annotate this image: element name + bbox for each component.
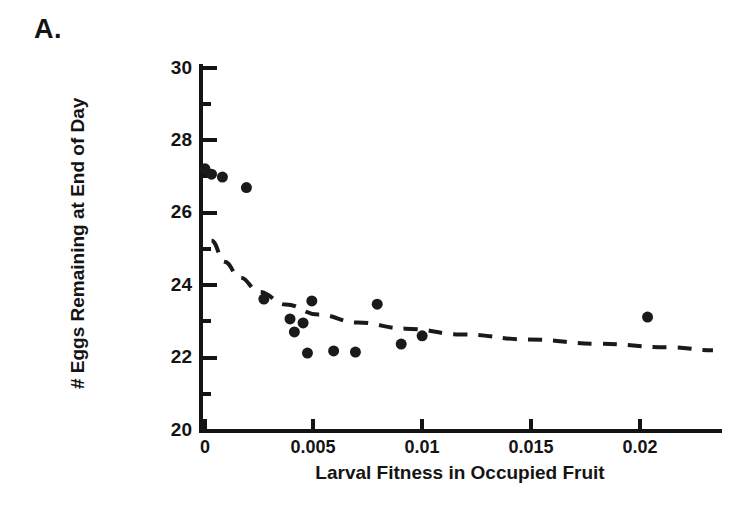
y-tick-label-28: 28: [148, 129, 192, 151]
data-point: [417, 330, 428, 341]
data-point: [328, 345, 339, 356]
x-tick-label-0015: 0.015: [508, 437, 553, 458]
x-tick-label-001: 0.01: [404, 437, 439, 458]
data-point-group: [200, 163, 654, 358]
data-point: [372, 299, 383, 310]
fit-curve-dashed: [212, 241, 713, 350]
scatter-plot-figure: # Eggs Remaining at End of Day Larval Fi…: [0, 0, 747, 519]
data-point: [306, 295, 317, 306]
x-axis-title: Larval Fitness in Occupied Fruit: [200, 462, 720, 484]
data-point: [350, 347, 361, 358]
axis-lines: [199, 64, 722, 431]
data-point: [206, 169, 217, 180]
data-point: [396, 339, 407, 350]
data-point: [642, 312, 653, 323]
y-axis-major-ticks: [201, 68, 217, 358]
data-point: [302, 348, 313, 359]
y-tick-label-20: 20: [148, 419, 192, 441]
data-point: [241, 182, 252, 193]
x-tick-label-002: 0.02: [622, 437, 657, 458]
data-point: [217, 172, 228, 183]
data-point: [298, 317, 309, 328]
y-axis-title: # Eggs Remaining at End of Day: [67, 129, 89, 389]
data-point: [258, 294, 269, 305]
y-tick-label-22: 22: [148, 346, 192, 368]
data-point: [285, 313, 296, 324]
y-tick-label-30: 30: [148, 57, 192, 79]
y-tick-label-26: 26: [148, 201, 192, 223]
x-tick-label-0: 0: [200, 437, 210, 458]
y-tick-label-24: 24: [148, 274, 192, 296]
data-point: [289, 326, 300, 337]
x-tick-label-0005: 0.005: [290, 437, 335, 458]
